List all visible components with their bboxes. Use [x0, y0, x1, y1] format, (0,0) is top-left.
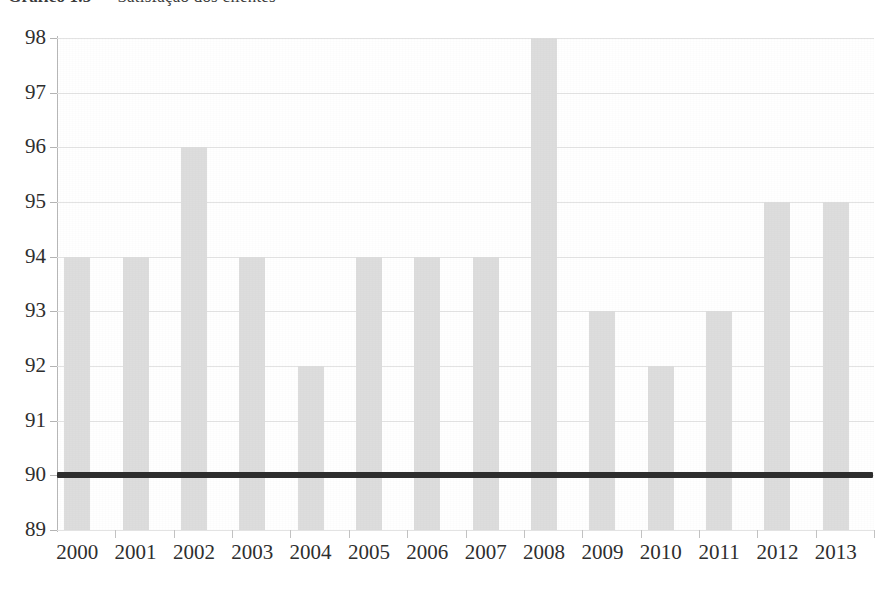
y-axis-tick-label-text: 90: [4, 464, 46, 485]
x-axis-tick-label: 2003: [223, 540, 281, 564]
bar: [706, 311, 732, 530]
y-axis-tick-mark: [50, 202, 57, 203]
y-axis-tick-label: 93: [0, 300, 46, 321]
plot-area: [57, 38, 874, 530]
bar: [648, 366, 674, 530]
y-axis-tick-label: 97: [0, 82, 46, 103]
x-axis-tick-mark: [699, 530, 700, 538]
y-axis-tick-label-text: 89: [4, 519, 46, 540]
y-axis-tick-label: 91: [0, 410, 46, 431]
x-axis-tick-mark: [582, 530, 583, 538]
x-axis-tick-label: 2001: [107, 540, 165, 564]
bar: [589, 311, 615, 530]
y-axis-tick-label: 96: [0, 136, 46, 157]
x-axis-tick-mark: [174, 530, 175, 538]
bar: [239, 257, 265, 530]
y-axis-tick-label: 95: [0, 191, 46, 212]
x-axis-tick-mark: [115, 530, 116, 538]
y-axis-tick-label: 90: [0, 464, 46, 485]
reference-line-90: [57, 472, 873, 478]
x-axis-tick-mark: [641, 530, 642, 538]
y-axis-tick-label-text: 94: [4, 246, 46, 267]
y-axis-tick-mark: [50, 311, 57, 312]
y-axis-tick-mark: [50, 257, 57, 258]
x-axis-tick-mark: [466, 530, 467, 538]
x-axis-tick-label: 2008: [515, 540, 573, 564]
x-axis-tick-mark: [874, 530, 875, 538]
bar: [123, 257, 149, 530]
x-axis-tick-mark: [232, 530, 233, 538]
x-axis-tick-mark: [524, 530, 525, 538]
y-axis-tick-mark: [50, 530, 57, 531]
paper-texture-overlay: [57, 38, 874, 530]
y-axis-tick-label-text: 93: [4, 300, 46, 321]
x-axis-tick-label: 2011: [690, 540, 748, 564]
y-axis-tick-mark: [50, 93, 57, 94]
y-axis-tick-mark: [50, 147, 57, 148]
x-axis-tick-mark: [816, 530, 817, 538]
y-axis-tick-label: 98: [0, 27, 46, 48]
bar: [356, 257, 382, 530]
y-axis-tick-mark: [50, 366, 57, 367]
x-axis-tick-mark: [757, 530, 758, 538]
x-axis-tick-label: 2004: [282, 540, 340, 564]
bar: [531, 38, 557, 530]
y-axis-tick-label-text: 91: [4, 410, 46, 431]
x-axis-tick-mark: [407, 530, 408, 538]
y-axis-tick-label-text: 98: [4, 27, 46, 48]
x-axis-tick-mark: [290, 530, 291, 538]
x-axis-tick-label: 2013: [807, 540, 865, 564]
bar: [764, 202, 790, 530]
x-axis-tick-label: 2010: [632, 540, 690, 564]
x-axis-tick-label: 2005: [340, 540, 398, 564]
x-axis-tick-label: 2009: [573, 540, 631, 564]
x-axis-tick-label: 2000: [48, 540, 106, 564]
bar-chart: 98979695949392919089 2000200120022003200…: [0, 0, 889, 591]
x-axis-tick-mark: [349, 530, 350, 538]
y-axis-tick-label-text: 96: [4, 136, 46, 157]
bar: [473, 257, 499, 530]
y-axis-tick-label: 89: [0, 519, 46, 540]
y-axis-tick-mark: [50, 475, 57, 476]
y-axis-tick-label: 94: [0, 246, 46, 267]
y-axis-tick-label-text: 92: [4, 355, 46, 376]
x-axis-tick-label: 2012: [748, 540, 806, 564]
bar: [64, 257, 90, 530]
x-axis-tick-label: 2002: [165, 540, 223, 564]
x-axis-tick-label: 2006: [398, 540, 456, 564]
y-axis-tick-mark: [50, 421, 57, 422]
y-axis-tick-label-text: 97: [4, 82, 46, 103]
x-axis-tick-label: 2007: [457, 540, 515, 564]
bar: [298, 366, 324, 530]
y-axis-tick-label-text: 95: [4, 191, 46, 212]
bar: [823, 202, 849, 530]
y-axis-tick-mark: [50, 38, 57, 39]
y-axis-tick-label: 92: [0, 355, 46, 376]
bar: [414, 257, 440, 530]
